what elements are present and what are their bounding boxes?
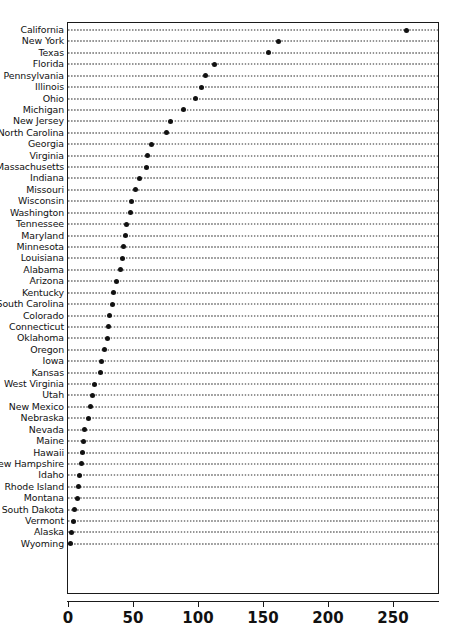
dot-plot-row: Nebraska: [0, 413, 449, 424]
row-leader-dots: [68, 543, 439, 544]
row-leader-dots: [68, 121, 439, 122]
row-leader-dots: [68, 30, 439, 31]
row-label-new-hampshire: New Hampshire: [0, 459, 64, 469]
data-point-marker: [164, 130, 169, 135]
row-label-new-mexico: New Mexico: [9, 402, 64, 412]
row-label-virginia: Virginia: [29, 151, 64, 161]
data-point-marker: [121, 244, 126, 249]
data-point-marker: [86, 416, 91, 421]
row-label-nebraska: Nebraska: [21, 413, 64, 423]
x-tick-mark: [393, 601, 394, 607]
dot-plot-row: Virginia: [0, 150, 449, 161]
data-point-marker: [128, 210, 133, 215]
row-label-tennessee: Tennessee: [16, 219, 64, 229]
row-label-minnesota: Minnesota: [17, 242, 65, 252]
data-point-marker: [76, 484, 81, 489]
row-leader-dots: [68, 167, 439, 168]
dot-plot-row: Arizona: [0, 276, 449, 287]
dot-plot-row: Oklahoma: [0, 333, 449, 344]
x-tick-label: 150: [247, 609, 278, 627]
data-point-marker: [102, 347, 107, 352]
row-label-alaska: Alaska: [34, 527, 64, 537]
x-tick-mark: [198, 601, 199, 607]
dot-plot-row: Maryland: [0, 230, 449, 241]
dot-plot-row: Texas: [0, 47, 449, 58]
row-leader-dots: [68, 395, 439, 396]
dot-plot-row: South Dakota: [0, 504, 449, 515]
data-point-marker: [120, 256, 125, 261]
row-leader-dots: [68, 189, 439, 190]
row-label-idaho: Idaho: [38, 470, 64, 480]
data-point-marker: [105, 336, 110, 341]
row-label-nevada: Nevada: [29, 425, 64, 435]
data-point-marker: [114, 279, 119, 284]
dot-plot-row: South Carolina: [0, 298, 449, 309]
dot-plot-row: Tennessee: [0, 218, 449, 229]
row-label-south-dakota: South Dakota: [2, 505, 64, 515]
data-point-marker: [79, 461, 84, 466]
dot-plot-row: Idaho: [0, 470, 449, 481]
data-point-marker: [88, 404, 93, 409]
row-label-montana: Montana: [24, 493, 64, 503]
dot-plot-row: Georgia: [0, 139, 449, 150]
dot-plot-row: North Carolina: [0, 127, 449, 138]
data-point-marker: [81, 439, 86, 444]
dot-plot-row: Montana: [0, 493, 449, 504]
data-point-marker: [71, 519, 76, 524]
data-point-marker: [203, 73, 208, 78]
row-label-georgia: Georgia: [28, 139, 64, 149]
dot-plot-row: Colorado: [0, 310, 449, 321]
dot-plot-row: Ohio: [0, 93, 449, 104]
row-leader-dots: [68, 361, 439, 362]
data-rows-layer: CaliforniaNew YorkTexasFloridaPennsylvan…: [0, 22, 449, 594]
row-label-kansas: Kansas: [31, 368, 64, 378]
row-leader-dots: [68, 521, 439, 522]
row-leader-dots: [68, 372, 439, 373]
dot-plot-row: Rhode Island: [0, 481, 449, 492]
row-leader-dots: [68, 201, 439, 202]
dot-plot-row: California: [0, 24, 449, 35]
dot-plot-row: Vermont: [0, 515, 449, 526]
data-point-marker: [106, 324, 111, 329]
data-point-marker: [111, 290, 116, 295]
dot-plot-row: Illinois: [0, 81, 449, 92]
row-leader-dots: [68, 212, 439, 213]
data-point-marker: [75, 496, 80, 501]
row-leader-dots: [68, 475, 439, 476]
row-label-kentucky: Kentucky: [22, 288, 64, 298]
x-tick-mark: [133, 601, 134, 607]
row-leader-dots: [68, 109, 439, 110]
row-label-hawaii: Hawaii: [33, 448, 64, 458]
row-leader-dots: [68, 52, 439, 53]
row-leader-dots: [68, 269, 439, 270]
data-point-marker: [266, 50, 271, 55]
data-point-marker: [99, 359, 104, 364]
dot-plot-row: New York: [0, 36, 449, 47]
dot-plot-row: Utah: [0, 390, 449, 401]
row-leader-dots: [68, 281, 439, 282]
row-leader-dots: [68, 132, 439, 133]
dot-plot-row: Pennsylvania: [0, 70, 449, 81]
row-label-north-carolina: North Carolina: [0, 128, 64, 138]
row-label-massachusetts: Massachusetts: [0, 162, 64, 172]
row-leader-dots: [68, 463, 439, 464]
row-label-wyoming: Wyoming: [21, 539, 64, 549]
x-tick-mark: [68, 601, 69, 607]
data-point-marker: [404, 28, 409, 33]
row-leader-dots: [68, 429, 439, 430]
dot-plot-row: Alaska: [0, 527, 449, 538]
data-point-marker: [80, 450, 85, 455]
dot-plot-row: Minnesota: [0, 241, 449, 252]
data-point-marker: [82, 427, 87, 432]
dot-plot-row: Wisconsin: [0, 196, 449, 207]
dot-plot-row: Connecticut: [0, 321, 449, 332]
row-leader-dots: [68, 41, 439, 42]
row-leader-dots: [68, 406, 439, 407]
data-point-marker: [129, 199, 134, 204]
row-leader-dots: [68, 486, 439, 487]
data-point-marker: [137, 176, 142, 181]
data-point-marker: [181, 107, 186, 112]
data-point-marker: [107, 313, 112, 318]
row-label-illinois: Illinois: [35, 82, 64, 92]
row-leader-dots: [68, 498, 439, 499]
